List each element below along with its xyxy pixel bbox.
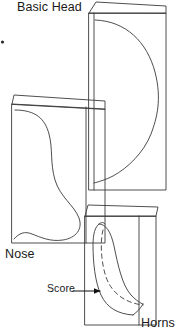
label-score-annotation: Score: [47, 283, 75, 294]
register-mark-dot: [1, 40, 4, 43]
horns-score-dashed-line: [101, 230, 143, 305]
basic-head-cut-curve: [94, 20, 158, 183]
panel-basic-head: [89, 2, 166, 190]
diagram-artwork: [0, 0, 183, 336]
horns-base-edge: [133, 304, 143, 315]
panel-horns: [85, 205, 158, 325]
papercraft-diagram: Basic Head Nose Horns Score: [0, 0, 183, 336]
label-basic-head: Basic Head: [17, 1, 82, 14]
label-horns: Horns: [141, 317, 175, 330]
horns-cut-curve-inner: [99, 224, 143, 304]
horns-fold-flap: [85, 205, 158, 216]
label-nose: Nose: [5, 248, 35, 261]
horns-tip: [99, 223, 105, 225]
nose-panel-body: [12, 104, 105, 243]
nose-cut-curve: [14, 110, 80, 240]
panel-nose: [12, 95, 105, 243]
basic-head-panel-body: [89, 13, 166, 190]
horns-cut-curve-outer: [93, 224, 133, 315]
basic-head-fold-flap: [89, 2, 166, 13]
horns-panel-body: [85, 216, 156, 325]
